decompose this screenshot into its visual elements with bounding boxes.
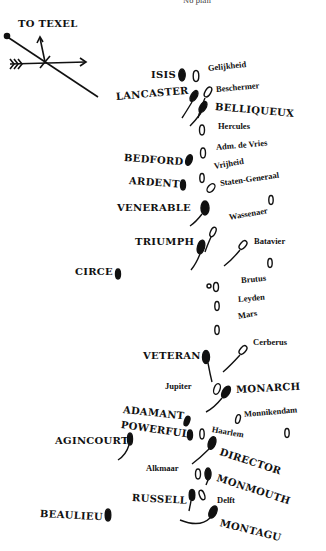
ship-ardent	[181, 180, 186, 190]
british-ships	[105, 69, 232, 524]
ship-monnikendam	[235, 414, 242, 424]
ship-cerberus	[238, 344, 249, 355]
ship-gelijkheid	[193, 71, 199, 82]
ship-bedford	[184, 154, 193, 166]
ship-adm-de-vries	[201, 148, 206, 158]
ship-triumph-opp	[209, 226, 218, 237]
ship-leyden	[215, 302, 219, 311]
ship-lancaster	[188, 89, 199, 102]
ship-wassenaer	[269, 196, 273, 205]
ship-venerable	[201, 201, 209, 215]
label-leyden: Leyden	[238, 293, 266, 304]
label-venerable: VENERABLE	[117, 203, 191, 213]
label-brutus: Brutus	[241, 274, 267, 285]
label-jupiter: Jupiter	[165, 382, 191, 391]
label-alkmaar: Alkmaar	[146, 464, 179, 473]
label-veteran: VETERAN	[143, 351, 201, 361]
label-hercules: Hercules	[218, 122, 250, 131]
ship-batavier-rear	[268, 259, 272, 268]
ship-isis	[179, 69, 185, 81]
label-delft: Delft	[217, 496, 235, 505]
ship-triumph	[196, 239, 206, 254]
label-triumph: TRIUMPH	[135, 237, 194, 247]
ship-alkmaar	[196, 469, 201, 479]
ship-beschermer	[203, 86, 213, 98]
ship-delft	[198, 489, 206, 500]
ship-veteran	[203, 351, 210, 364]
ship-beaulieu	[105, 509, 111, 521]
label-agincourt: AGINCOURT	[55, 436, 129, 446]
ship-vrijheid	[200, 174, 204, 183]
ship-hercules	[200, 125, 205, 135]
compass-arrows-icon	[5, 34, 99, 98]
label-isis: ISIS	[151, 70, 176, 80]
ship-mars	[215, 326, 219, 335]
ship-director	[206, 436, 217, 451]
ship-jupiter	[212, 383, 221, 395]
compass-label: TO TEXEL	[18, 19, 78, 29]
top-caption: No plan	[183, 0, 211, 5]
ship-montagu	[207, 505, 219, 520]
ship-staten-generaal	[205, 182, 216, 194]
ship-monnikendam-rear	[285, 429, 289, 438]
ship-monmouth	[205, 468, 211, 480]
label-batavier: Batavier	[254, 237, 285, 246]
label-cerberus: Cerberus	[253, 338, 287, 347]
ship-circe	[116, 269, 121, 279]
ship-brutus	[214, 283, 219, 292]
ship-russell	[189, 490, 195, 501]
label-circe: CIRCE	[75, 267, 113, 277]
ship-haarlem	[200, 429, 204, 439]
ship-monarch	[220, 385, 233, 400]
ship-batavier	[238, 239, 249, 250]
